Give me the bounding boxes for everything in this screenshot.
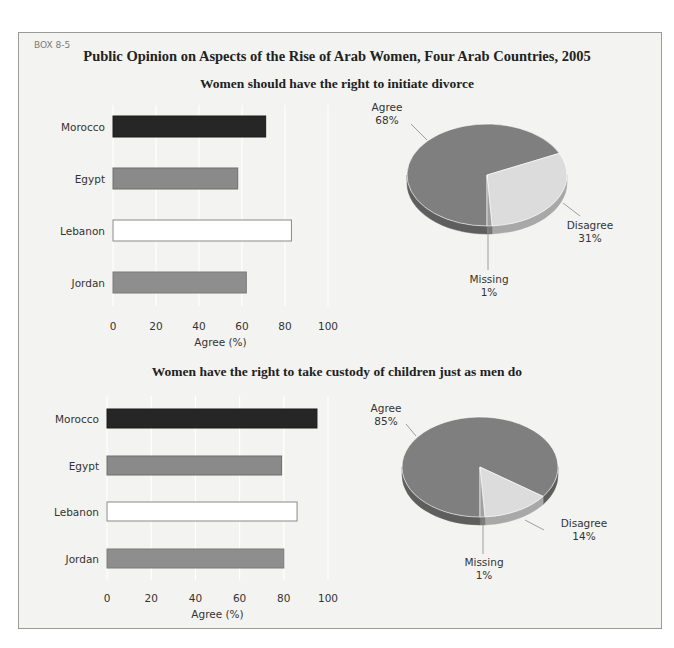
pie-value-agree: 68% bbox=[375, 114, 398, 126]
bar-chart-divorce: MoroccoEgyptLebanonJordan020406080100Agr… bbox=[60, 105, 338, 348]
pie-chart-divorce: Agree68%Disagree31%Missing1% bbox=[372, 101, 614, 298]
leader-line bbox=[563, 203, 580, 216]
pie-label-missing: Missing bbox=[464, 556, 503, 568]
x-tick-label: 20 bbox=[149, 320, 162, 332]
bar-jordan bbox=[107, 549, 284, 568]
pie-label-disagree: Disagree bbox=[567, 219, 614, 231]
leader-line bbox=[406, 424, 416, 436]
pie-chart-custody: Agree85%Disagree14%Missing1% bbox=[371, 402, 608, 581]
category-label: Morocco bbox=[61, 121, 105, 133]
pie-label-disagree: Disagree bbox=[561, 517, 608, 529]
x-axis-label: Agree (%) bbox=[191, 608, 243, 620]
x-tick-label: 0 bbox=[104, 592, 111, 604]
category-label: Egypt bbox=[69, 460, 99, 472]
category-label: Egypt bbox=[75, 173, 105, 185]
bar-chart-custody: MoroccoEgyptLebanonJordan020406080100Agr… bbox=[54, 396, 338, 620]
leader-line bbox=[525, 520, 544, 530]
x-tick-label: 60 bbox=[233, 592, 246, 604]
pie-value-missing: 1% bbox=[476, 569, 493, 581]
bar-jordan bbox=[113, 272, 246, 293]
category-label: Jordan bbox=[71, 277, 105, 289]
x-tick-label: 40 bbox=[192, 320, 205, 332]
bar-morocco bbox=[107, 409, 317, 428]
x-tick-label: 40 bbox=[189, 592, 202, 604]
pie-label-agree: Agree bbox=[371, 402, 402, 414]
pie-slice-missing-side bbox=[480, 517, 485, 525]
category-label: Morocco bbox=[55, 413, 99, 425]
x-tick-label: 100 bbox=[318, 320, 338, 332]
pie-label-agree: Agree bbox=[372, 101, 403, 113]
pie-value-missing: 1% bbox=[481, 286, 498, 298]
x-tick-label: 100 bbox=[318, 592, 338, 604]
pie-value-disagree: 31% bbox=[578, 232, 601, 244]
bar-egypt bbox=[107, 456, 282, 475]
pie-value-agree: 85% bbox=[374, 415, 397, 427]
leader-line bbox=[411, 124, 427, 140]
pie-value-disagree: 14% bbox=[572, 530, 595, 542]
chart-canvas: MoroccoEgyptLebanonJordan020406080100Agr… bbox=[0, 0, 674, 648]
x-axis-label: Agree (%) bbox=[194, 336, 246, 348]
category-label: Jordan bbox=[65, 553, 99, 565]
bar-lebanon bbox=[113, 220, 291, 241]
pie-label-missing: Missing bbox=[469, 273, 508, 285]
bar-lebanon bbox=[107, 502, 297, 521]
x-tick-label: 20 bbox=[145, 592, 158, 604]
x-tick-label: 60 bbox=[235, 320, 248, 332]
category-label: Lebanon bbox=[60, 225, 105, 237]
bar-morocco bbox=[113, 116, 266, 137]
x-tick-label: 0 bbox=[110, 320, 117, 332]
bar-egypt bbox=[113, 168, 238, 189]
x-tick-label: 80 bbox=[278, 320, 291, 332]
category-label: Lebanon bbox=[54, 506, 99, 518]
x-tick-label: 80 bbox=[277, 592, 290, 604]
